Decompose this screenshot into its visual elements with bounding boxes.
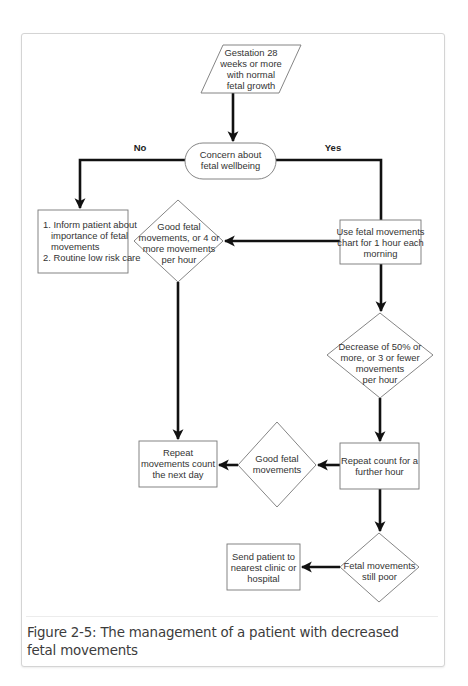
svg-text:hospital: hospital: [247, 573, 279, 584]
svg-text:movements: movements: [253, 464, 302, 475]
svg-text:chart for 1 hour each: chart for 1 hour each: [337, 237, 424, 248]
svg-text:Decrease of 50% or: Decrease of 50% or: [339, 341, 422, 352]
svg-text:per hour: per hour: [162, 254, 197, 265]
svg-text:2. Routine low risk care: 2. Routine low risk care: [43, 252, 140, 263]
branch-label-yes: Yes: [325, 142, 341, 153]
svg-text:with normal: with normal: [226, 69, 275, 80]
svg-text:further hour: further hour: [355, 466, 403, 477]
svg-text:movements: movements: [356, 363, 405, 374]
svg-text:morning: morning: [364, 248, 398, 259]
node-good-fetal-text: Good fetal movements: [253, 453, 302, 475]
svg-text:more movements: more movements: [143, 243, 216, 254]
figure-caption: Figure 2-5: The management of a patient …: [27, 624, 427, 660]
node-concern-text: Concern about fetal wellbeing: [200, 149, 262, 171]
caption-divider: [26, 616, 438, 617]
edge-concern-to-inform: [80, 160, 185, 208]
svg-text:Fetal movements: Fetal movements: [344, 560, 416, 571]
svg-text:fetal growth: fetal growth: [227, 80, 275, 91]
svg-text:weeks or more: weeks or more: [219, 58, 281, 69]
svg-text:1. Inform patient about: 1. Inform patient about: [43, 219, 137, 230]
node-start-text: Gestation 28 weeks or more with normal f…: [219, 47, 281, 91]
svg-text:Good fetal: Good fetal: [255, 453, 298, 464]
flowchart: No Yes Gestation 28 weeks or more with n…: [0, 0, 468, 620]
svg-text:Concern about: Concern about: [200, 149, 262, 160]
svg-text:movements count: movements count: [141, 458, 215, 469]
svg-text:Repeat: Repeat: [163, 447, 194, 458]
svg-text:fetal wellbeing: fetal wellbeing: [201, 160, 260, 171]
svg-text:still poor: still poor: [362, 571, 397, 582]
svg-text:movements, or 4 or: movements, or 4 or: [139, 232, 220, 243]
svg-text:importance of fetal: importance of fetal: [51, 230, 128, 241]
svg-text:Repeat count for a: Repeat count for a: [341, 455, 419, 466]
svg-text:Good fetal: Good fetal: [157, 221, 200, 232]
svg-text:Gestation 28: Gestation 28: [224, 47, 277, 58]
svg-text:the next day: the next day: [152, 469, 203, 480]
svg-text:Use fetal movements: Use fetal movements: [336, 226, 424, 237]
svg-text:per hour: per hour: [363, 374, 398, 385]
svg-text:nearest clinic or: nearest clinic or: [231, 562, 297, 573]
svg-text:Send patient to: Send patient to: [232, 551, 295, 562]
svg-text:movements: movements: [51, 241, 100, 252]
svg-text:more, or 3 or fewer: more, or 3 or fewer: [340, 352, 419, 363]
edge-concern-to-use-chart: [276, 160, 381, 220]
branch-label-no: No: [134, 142, 147, 153]
